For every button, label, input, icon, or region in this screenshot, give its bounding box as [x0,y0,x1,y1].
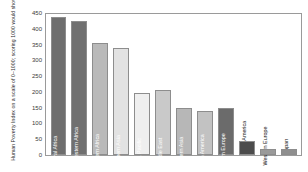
y-tick-label: 200 [22,89,42,95]
bar-group: Japan [278,14,299,155]
bar-category-label: Asia Pacific [136,138,142,166]
bar-category-label: Middle East [157,138,163,166]
bar-series: Central AfricaSouth-western AfricaNorthe… [46,14,301,155]
y-tick-label: 100 [22,120,42,126]
y-axis-ticks: 450400350300250200150100500 [22,0,42,172]
bar: Eastern Asia [176,108,192,155]
y-tick-label: 250 [22,73,42,79]
bar-group: Northern Africa [90,14,111,155]
y-tick-label: 150 [22,105,42,111]
bar: South America [197,111,213,155]
bar: Northern Africa [92,43,108,155]
bar: Middle East [155,90,171,155]
bar [260,149,276,155]
y-tick-label: 450 [22,10,42,16]
y-axis-title: Human Poverty Index on a scale of 0–1000… [3,0,23,137]
y-tick-label: 350 [22,42,42,48]
bar-group: Eastern Asia [174,14,195,155]
bar-category-label: Eastern Europe [220,133,226,171]
bar: Eastern Europe [218,108,234,155]
bar: Southern Asia [113,48,129,155]
y-axis-title-text: Human Poverty Index on a scale of 0–1000… [10,0,17,161]
bar-group: Western Europe [257,14,278,155]
bar-group: Southern Asia [111,14,132,155]
bar-category-label: Western Europe [262,127,268,166]
bar-group: Middle East [153,14,174,155]
bar-group: South-western Africa [69,14,90,155]
bar-category-label: South America [199,134,205,169]
bar-chart: Human Poverty Index on a scale of 0–1000… [0,0,308,172]
bar-category-label: South-western Africa [73,127,79,172]
bar-group: Eastern Europe [215,14,236,155]
y-tick-label: 0 [22,152,42,158]
bar-category-label: Central Africa [52,136,58,169]
plot-area: Central AfricaSouth-western AfricaNorthe… [45,13,302,156]
y-tick-label: 50 [22,136,42,142]
bar: South-western Africa [71,21,87,155]
bar-group: Asia Pacific [132,14,153,155]
bar [281,149,297,155]
y-tick-label: 400 [22,26,42,32]
bar-group: Central Africa [48,14,69,155]
bar-category-label: Southern Asia [115,135,121,169]
bar-category-label: Eastern Asia [178,137,184,168]
bar-category-label: Northern Africa [94,134,100,170]
y-tick-label: 300 [22,57,42,63]
bar: Asia Pacific [134,93,150,155]
bar-group: South America [194,14,215,155]
bar [239,141,255,155]
bar: Central Africa [51,17,67,155]
bar-group: North America [236,14,257,155]
